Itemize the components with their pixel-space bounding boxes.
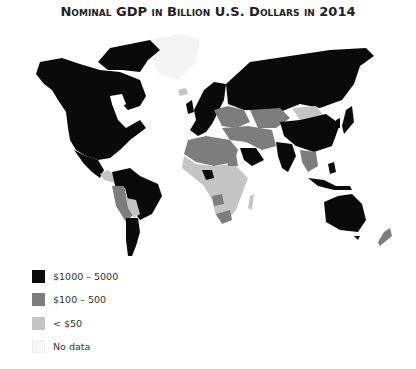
- map-title: Nominal GDP in Billion U.S. Dollars in 2…: [0, 4, 416, 19]
- region-philippines: [328, 162, 336, 174]
- legend-item-low: < $50: [32, 317, 118, 329]
- legend-label: $100 – 500: [53, 294, 106, 305]
- region-iceland: [178, 88, 188, 96]
- region-korea: [336, 118, 340, 128]
- legend-item-high: $1000 – 5000: [32, 270, 118, 282]
- legend-item-nodata: No data: [32, 341, 118, 353]
- region-japan: [342, 106, 354, 134]
- region-saudi: [240, 148, 264, 166]
- region-angola: [212, 194, 224, 206]
- legend-swatch-low: [32, 317, 45, 330]
- region-new-zealand: [378, 228, 392, 246]
- region-canada-arctic: [98, 40, 160, 72]
- region-sudan: [226, 154, 238, 166]
- legend: $1000 – 5000 $100 – 500 < $50 No data: [32, 270, 118, 364]
- region-se-asia: [300, 150, 318, 172]
- region-greenland: [148, 34, 200, 80]
- region-argentina: [126, 218, 140, 256]
- region-sub-saharan-africa: [182, 156, 248, 222]
- region-indonesia: [308, 178, 352, 190]
- legend-label: No data: [53, 341, 90, 352]
- world-map: [0, 28, 416, 268]
- legend-item-mid: $100 – 500: [32, 294, 118, 306]
- legend-swatch-high: [32, 270, 45, 283]
- legend-swatch-nodata: [32, 340, 45, 353]
- region-madagascar: [248, 194, 254, 210]
- legend-label: < $50: [53, 318, 82, 329]
- region-india: [276, 142, 296, 172]
- region-australia: [324, 194, 366, 232]
- region-russia: [226, 48, 374, 112]
- legend-label: $1000 – 5000: [53, 271, 118, 282]
- region-tasmania: [354, 236, 360, 240]
- region-uk: [186, 100, 194, 114]
- region-north-america: [36, 58, 146, 160]
- legend-swatch-mid: [32, 293, 45, 306]
